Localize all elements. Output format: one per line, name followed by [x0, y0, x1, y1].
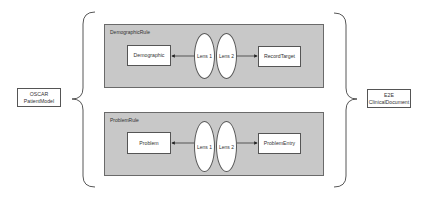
lens-label: Lens 1 [197, 53, 212, 59]
lens-1: Lens 1 [194, 121, 215, 172]
lens-label: Lens 1 [197, 144, 212, 150]
arrows [0, 0, 428, 197]
lens-2: Lens 2 [216, 33, 237, 79]
lens-label: Lens 2 [219, 53, 234, 59]
lens-1: Lens 1 [194, 33, 215, 79]
lens-2: Lens 2 [216, 121, 237, 172]
lens-label: Lens 2 [219, 144, 234, 150]
